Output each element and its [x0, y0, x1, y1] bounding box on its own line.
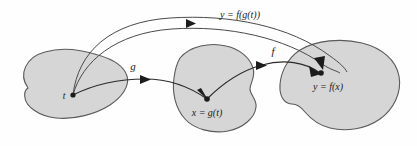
point-dot-y: [318, 70, 324, 76]
label-arrow-g: g: [130, 60, 136, 72]
arrow-f-head-mid: [256, 61, 267, 70]
point-dot-t: [70, 92, 75, 97]
diagram-canvas: t x = g(t) y = f(x) g f y = f(g(t)): [0, 0, 417, 146]
composite-arrow-head: [186, 19, 196, 28]
arrow-g-head-mid: [140, 75, 151, 84]
label-arrow-f: f: [271, 45, 276, 57]
function-composition-diagram: t x = g(t) y = f(x) g f y = f(g(t)): [0, 0, 417, 146]
set-blob-domain-t: [24, 49, 128, 118]
label-point-x: x = g(t): [191, 107, 223, 119]
set-blob-domain-x: [173, 45, 256, 132]
label-point-y: y = f(x): [312, 81, 344, 93]
point-dot-x: [204, 96, 210, 102]
label-point-t: t: [63, 91, 66, 101]
label-arrow-composite: y = f(g(t)): [219, 9, 261, 21]
